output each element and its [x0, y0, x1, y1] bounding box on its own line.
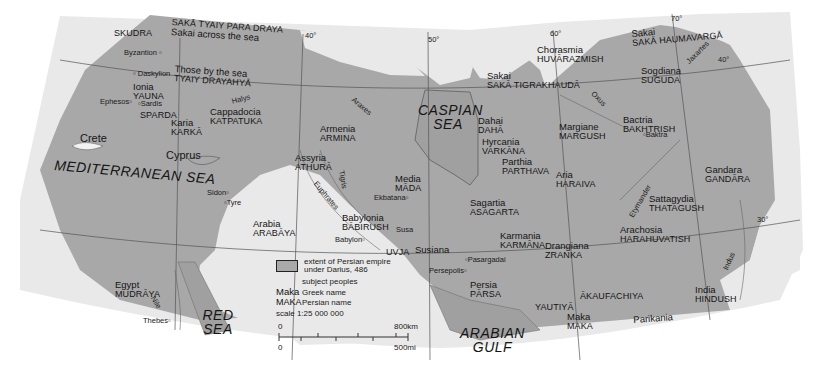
city-pasargadai: ▫Pasargadai — [465, 256, 506, 264]
island-label-cyprus: Cyprus — [166, 150, 201, 162]
city-ephesos: Ephesos▫ — [100, 98, 132, 106]
legend-swatch-label: extent of Persian empire under Darius, 4… — [304, 258, 404, 275]
region-label-arabia: ArabiaARABĀYA — [253, 219, 296, 238]
scale-bar-graphic — [278, 332, 418, 342]
region-label-persia: PersiaPĀRSA — [470, 280, 501, 299]
city-sardis: ▫Sardis — [138, 100, 162, 108]
legend-subject-peoples: subject peoples — [276, 277, 416, 286]
city-thebes: Thebes▫ — [143, 317, 171, 325]
persian-empire-map: 40° 50° 60° 70° 40° 30° MEDITERRANEAN SE… — [0, 0, 818, 381]
city-sidon: Sidon▫ — [207, 189, 229, 197]
map-legend: extent of Persian empire under Darius, 4… — [276, 258, 416, 354]
region-label-aria: AriaHARAIVA — [556, 170, 596, 189]
region-label-chorasmia: ChorasmiaHUVĀRAZMISH — [537, 45, 604, 64]
region-label-hyrcania: HyrcaniaVARKĀNA — [482, 137, 525, 156]
region-label-sogdiana: SogdianaSUGUDA — [641, 66, 681, 85]
city-baktra: ▫Baktra — [643, 131, 667, 139]
scale-km-max: 800km — [394, 322, 418, 331]
latitude-30-label: 30° — [757, 216, 768, 224]
region-label-cappadocia: CappadociaKATPATUKA — [210, 107, 262, 126]
island-label-crete: Crete — [80, 133, 107, 145]
city-persepolis: Persepolis▫ — [429, 267, 467, 275]
city-susa: Susa — [396, 226, 413, 234]
latitude-40-label: 40° — [718, 56, 729, 64]
sea-label-caspian: CASPIAN SEA — [418, 103, 478, 131]
region-label-sagartia: SagartiaASAGARTA — [470, 198, 519, 217]
legend-swatch-row: extent of Persian empire under Darius, 4… — [276, 258, 416, 275]
region-label-akaufachiya: ĀKAUFACHIYA — [580, 292, 643, 301]
sea-label-red: RED SEA — [198, 308, 238, 336]
region-label-margiane: MargianeMARGUSH — [559, 122, 606, 141]
scale-km-zero: 0 — [278, 322, 282, 331]
legend-scale: scale 1:25 000 000 — [276, 309, 416, 318]
city-byzantion: Byzantion ▫ — [124, 49, 162, 57]
scale-mi-max: 500mi — [394, 343, 416, 352]
city-daskylion: ▫ Daskylion — [133, 70, 170, 78]
longitude-40-label: 40° — [305, 32, 316, 40]
region-label-india: IndiaHINDUSH — [695, 285, 737, 304]
region-label-drangiana: DrangianaZRANKA — [545, 241, 589, 260]
city-tyre: ▫Tyre — [224, 199, 241, 207]
region-label-skudra: SKUDRA — [114, 29, 152, 38]
city-babylon: Babylon▫ — [335, 236, 365, 244]
longitude-50-label: 50° — [428, 36, 439, 44]
scale-mi-zero: 0 — [278, 343, 282, 352]
region-label-maka: MakaMAKA — [567, 312, 593, 331]
region-label-armenia: ArmeniaARMINA — [320, 124, 356, 143]
empire-extent-swatch — [276, 260, 298, 272]
region-label-media: MediaMĀDA — [395, 174, 421, 193]
region-label-saka-tigrakhauda: SakaiSAKĀ TIGRAKHAUDĀ — [487, 71, 580, 90]
region-label-sattagydia: SattagydiaTHATAGUSH — [649, 194, 704, 213]
region-label-parthia: ParthiaPARTHAVA — [502, 157, 549, 176]
region-label-karmania: KarmaniaKARMĀNA — [500, 231, 545, 250]
city-ekbatana: Ekbatana▫ — [374, 194, 408, 202]
legend-persian-row: MAKAPersian name — [276, 297, 416, 307]
region-label-gandara: GandaraGANDĀRA — [705, 165, 750, 184]
region-label-karia: KariaKARKĀ — [171, 118, 202, 137]
scale-bar: 0 800km 0 500mi — [276, 318, 416, 354]
region-label-arachosia: ArachosiaHARAHUVATISH — [620, 225, 690, 244]
river-tigris: Tigris — [337, 170, 348, 189]
longitude-70-label: 70° — [671, 15, 682, 23]
region-label-susiana: Susiana — [415, 245, 449, 255]
longitude-60-label: 60° — [550, 30, 561, 38]
region-label-assyria: AssyriaATHURĀ — [295, 153, 332, 172]
region-label-babylonia: BabyloniaBĀBIRUSH — [342, 213, 389, 232]
sea-label-arabian-gulf: ARABIAN GULF — [455, 326, 530, 354]
legend-greek-row: MakaGreek name — [276, 286, 416, 297]
region-label-dahai: DahaiDAHĀ — [478, 116, 503, 135]
